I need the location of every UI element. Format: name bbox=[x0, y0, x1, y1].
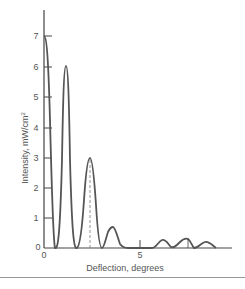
x-axis-label: Deflection, degrees bbox=[86, 263, 164, 273]
intensity-curve bbox=[44, 36, 216, 248]
intensity-chart: 1 2 3 4 5 6 7 0 0 5 Intensity, mW/cm2 De… bbox=[0, 0, 245, 289]
x-tick-5: 5 bbox=[137, 250, 142, 260]
bottom-rule bbox=[0, 277, 245, 278]
y-tick-5: 5 bbox=[33, 92, 38, 102]
y-tick-4: 4 bbox=[33, 123, 38, 133]
x-tick-0: 0 bbox=[41, 250, 46, 260]
y-tick-1: 1 bbox=[33, 213, 38, 223]
y-tick-7: 7 bbox=[33, 31, 38, 41]
y-tick-0: 0 bbox=[35, 242, 40, 252]
y-tick-6: 6 bbox=[33, 62, 38, 72]
y-tick-2: 2 bbox=[33, 183, 38, 193]
y-tick-3: 3 bbox=[33, 153, 38, 163]
y-axis-label: Intensity, mW/cm2 bbox=[20, 112, 30, 184]
y-tick-labels: 1 2 3 4 5 6 7 0 bbox=[33, 31, 40, 252]
